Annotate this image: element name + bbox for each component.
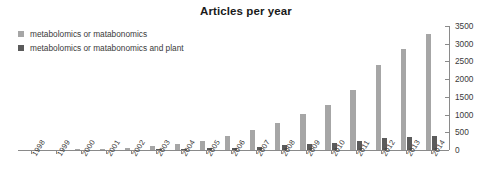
bar[interactable] [426, 34, 431, 150]
y-axis-tick [445, 132, 449, 133]
y-axis-label: 500 [455, 128, 469, 136]
y-axis-tick [445, 61, 449, 62]
y-axis-tick [445, 150, 449, 151]
y-axis-tick [445, 26, 449, 27]
bar-group [269, 26, 294, 150]
y-axis-tick [445, 97, 449, 98]
bar-group [68, 26, 93, 150]
bar-group [419, 26, 444, 150]
y-axis-label: 2500 [455, 57, 473, 65]
chart-container: Articles per year metabolomics or matabo… [0, 0, 492, 187]
bar-group [244, 26, 269, 150]
bar-group [218, 26, 243, 150]
chart-title: Articles per year [0, 5, 492, 17]
y-axis-label: 2000 [455, 75, 473, 83]
bar[interactable] [325, 105, 330, 150]
bar-group [118, 26, 143, 150]
bar-group [168, 26, 193, 150]
y-axis-label: 3500 [455, 22, 473, 30]
bar-group [143, 26, 168, 150]
bar[interactable] [350, 90, 355, 150]
y-axis-tick [445, 115, 449, 116]
bar[interactable] [300, 114, 305, 150]
y-axis-tick [445, 79, 449, 80]
y-axis-tick [445, 44, 449, 45]
bar-group [18, 26, 43, 150]
bar-group [43, 26, 68, 150]
bar-group [294, 26, 319, 150]
bar-group [344, 26, 369, 150]
bar-group [193, 26, 218, 150]
bar[interactable] [376, 65, 381, 150]
bar-group [319, 26, 344, 150]
plot-area [18, 26, 444, 150]
bar[interactable] [225, 136, 230, 150]
y-axis-label: 0 [455, 146, 460, 154]
bar[interactable] [250, 130, 255, 150]
y-axis-label: 3000 [455, 40, 473, 48]
bar[interactable] [200, 141, 205, 150]
y-axis-label: 1500 [455, 93, 473, 101]
y-axis-label: 1000 [455, 111, 473, 119]
bar-group [93, 26, 118, 150]
bar[interactable] [275, 123, 280, 150]
bar-group [369, 26, 394, 150]
bar[interactable] [401, 49, 406, 150]
y-axis [449, 26, 450, 150]
bar-group [394, 26, 419, 150]
